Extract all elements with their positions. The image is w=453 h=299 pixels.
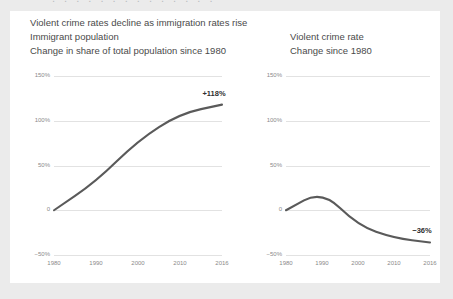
left-chart-subtitle: Change in share of total population sinc…: [30, 45, 226, 56]
clipped-header-text: . . . . . . . . . . . . . .: [52, 0, 216, 4]
right-chart-subtitle: Change since 1980: [290, 45, 372, 56]
chart-panel-immigrant-population: Immigrant population Change in share of …: [18, 11, 228, 283]
chart-panel-violent-crime-rate: Violent crime rate Change since 1980 150…: [234, 11, 440, 283]
left-plot-area: 150%100%50%0−50%19801990200020102016+118…: [18, 58, 228, 273]
clipped-header-strip: . . . . . . . . . . . . . .: [0, 0, 453, 11]
series-line: [234, 58, 440, 273]
right-plot-area: 150%100%50%0−50%19801990200020102016−36%: [234, 58, 440, 273]
series-line: [18, 58, 228, 273]
chart-card: Violent crime rates decline as immigrati…: [10, 11, 440, 283]
right-chart-title: Violent crime rate: [290, 31, 364, 42]
screenshot-root: . . . . . . . . . . . . . . Violent crim…: [0, 0, 453, 299]
data-point-label: +118%: [202, 89, 225, 98]
left-chart-title: Immigrant population: [30, 31, 119, 42]
data-point-label: −36%: [412, 226, 431, 235]
